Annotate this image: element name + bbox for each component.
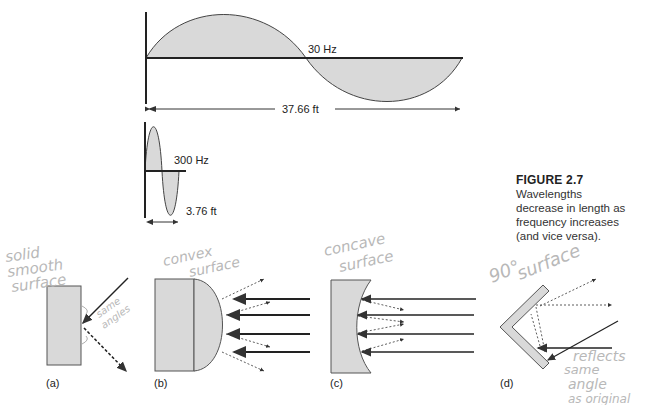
caption-line-4: (and vice versa). <box>516 229 656 243</box>
caption-line-3: frequency increases <box>516 215 656 229</box>
caption-line-1: Wavelengths <box>516 187 656 201</box>
panel-a-label: (a) <box>46 377 59 389</box>
wave-30hz <box>146 12 463 112</box>
panel-d-note-2: same <box>564 362 599 377</box>
caption-line-2: decrease in length as <box>516 201 656 215</box>
panel-c-label: (c) <box>330 377 343 389</box>
panel-d-note-4: as original <box>568 392 631 405</box>
wave-300hz-frequency-label: 300 Hz <box>174 154 209 166</box>
wave-300hz-wavelength-label: 3.76 ft <box>186 205 217 217</box>
figure-number: FIGURE 2.7 <box>516 173 656 187</box>
figure-caption: FIGURE 2.7 Wavelengths decrease in lengt… <box>516 173 656 243</box>
wave-30hz-wavelength-label: 37.66 ft <box>282 103 319 115</box>
wave-30hz-frequency-label: 30 Hz <box>308 43 337 55</box>
panel-a-solid-surface <box>47 278 128 371</box>
panel-b-convex-surface <box>155 279 310 371</box>
panel-d-label: (d) <box>500 377 513 389</box>
panel-d-note-3: angle <box>568 376 607 392</box>
panel-c-concave-surface <box>331 280 476 373</box>
wave-300hz <box>145 122 186 225</box>
panel-b-label: (b) <box>154 377 167 389</box>
panel-d-annotation-2: surface <box>514 239 584 283</box>
